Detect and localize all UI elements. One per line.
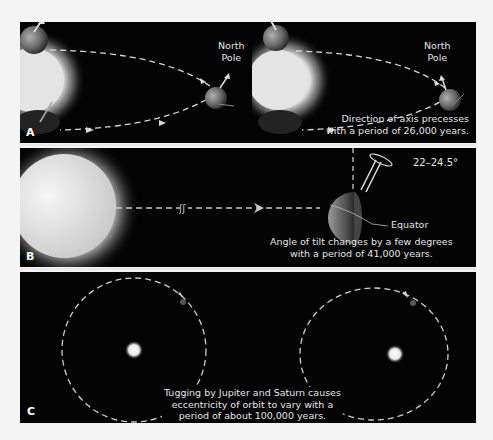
tilt-axis-arrows-icon xyxy=(361,152,393,192)
eccentricity-caption-line3: period of about 100,000 years. xyxy=(164,410,341,422)
panel-label-c: C xyxy=(27,405,35,418)
equator-leader-line xyxy=(372,224,388,226)
north-pole-label-left: North Pole xyxy=(218,40,245,63)
precession-caption-line2: with a period of 26,000 years. xyxy=(326,125,469,137)
earth-top-right xyxy=(263,22,289,51)
north-pole-label-right-line1: North xyxy=(424,40,451,52)
precession-caption: Direction of axis precesses with a perio… xyxy=(326,113,469,136)
north-pole-label-left-line2: Pole xyxy=(218,52,245,64)
eccentricity-caption-line2: eccentricity of orbit to vary with a xyxy=(164,399,341,411)
north-pole-label-right: North Pole xyxy=(424,40,451,63)
panel-separator xyxy=(20,268,476,270)
precession-caption-line1: Direction of axis precesses xyxy=(326,113,469,125)
sun-circular xyxy=(125,341,143,359)
obliquity-caption-line2: with a period of 41,000 years. xyxy=(270,248,453,260)
equator-label: Equator xyxy=(391,219,428,231)
earth-bottom-right xyxy=(258,110,302,134)
north-pole-label-left-line1: North xyxy=(218,40,245,52)
sun-elliptical xyxy=(386,345,404,363)
eccentricity-caption-line1: Tugging by Jupiter and Saturn causes xyxy=(164,387,341,399)
obliquity-caption-line1: Angle of tilt changes by a few degrees xyxy=(270,236,453,248)
panel-a-precession: North Pole North Pole Direction of axis … xyxy=(20,22,476,143)
panel-c-eccentricity: Tugging by Jupiter and Saturn causes ecc… xyxy=(20,272,476,423)
obliquity-caption: Angle of tilt changes by a few degrees w… xyxy=(270,236,453,259)
panel-b-obliquity: ʃʃ 22–24.5° Equator Angle of tilt change… xyxy=(20,148,476,267)
panel-label-a: A xyxy=(26,126,35,139)
direction-arrow-icon xyxy=(254,203,264,213)
eccentricity-caption: Tugging by Jupiter and Saturn causes ecc… xyxy=(162,387,343,422)
earth-right-left xyxy=(205,73,234,109)
break-mark-icon: ʃʃ xyxy=(178,203,186,214)
panel-separator xyxy=(20,144,476,146)
panel-label-b: B xyxy=(26,250,34,263)
earth-right-right xyxy=(439,75,464,111)
tilt-angle-label: 22–24.5° xyxy=(413,157,458,169)
north-pole-label-right-line2: Pole xyxy=(424,52,451,64)
earth-top-left xyxy=(20,22,48,54)
